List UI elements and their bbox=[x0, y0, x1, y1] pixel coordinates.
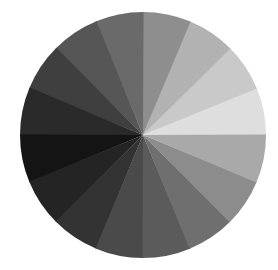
figure-canvas bbox=[0, 0, 278, 270]
pie-chart bbox=[0, 0, 278, 270]
pie-slice-group bbox=[20, 12, 266, 258]
